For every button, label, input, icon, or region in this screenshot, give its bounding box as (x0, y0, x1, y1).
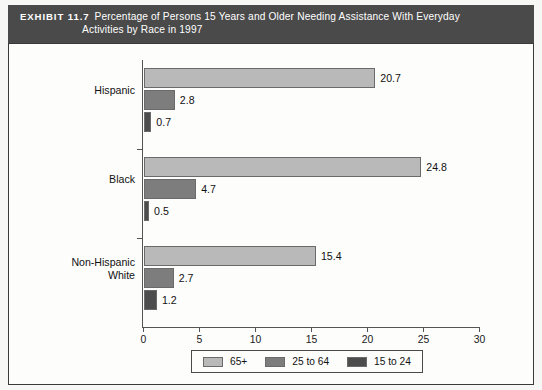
x-axis-tick (143, 327, 144, 332)
chart-bar (144, 268, 174, 288)
x-axis-tick-label: 25 (418, 334, 430, 345)
x-axis-tick-label: 10 (250, 334, 262, 345)
legend-label: 25 to 64 (292, 356, 329, 367)
category-label-line2: White (35, 269, 135, 282)
legend-item: 25 to 64 (265, 356, 329, 367)
y-axis-tick (137, 149, 143, 150)
category-label: Black (35, 173, 135, 186)
x-axis-tick-label: 5 (197, 334, 203, 345)
x-axis-tick (199, 327, 200, 332)
chart-bar (144, 68, 376, 88)
x-axis-tick-label: 0 (141, 334, 147, 345)
legend-swatch (347, 357, 367, 367)
bar-value-label: 2.7 (179, 272, 194, 284)
x-axis-tick (367, 327, 368, 332)
legend-item: 65+ (203, 356, 247, 367)
x-axis-tick-label: 15 (306, 334, 318, 345)
chart-legend: 65+25 to 6415 to 24 (191, 350, 423, 373)
x-axis-tick (479, 327, 480, 332)
bar-value-label: 4.7 (201, 183, 216, 195)
exhibit-title-line1: Percentage of Persons 15 Years and Older… (94, 11, 459, 22)
x-axis-tick (255, 327, 256, 332)
x-axis-tick (311, 327, 312, 332)
chart-bar (144, 246, 316, 266)
y-axis-tick (137, 238, 143, 239)
chart-bar (144, 201, 150, 221)
bar-value-label: 2.8 (180, 94, 195, 106)
legend-swatch (265, 357, 285, 367)
bar-value-label: 1.2 (162, 294, 177, 306)
exhibit-banner: EXHIBIT 11.7Percentage of Persons 15 Yea… (8, 5, 534, 43)
chart-bar (144, 179, 197, 199)
legend-label: 15 to 24 (374, 356, 411, 367)
legend-label: 65+ (230, 356, 247, 367)
chart-bar (144, 112, 152, 132)
exhibit-title-line2: Activities by Race in 1997 (82, 23, 524, 36)
bar-value-label: 15.4 (321, 250, 342, 262)
chart-bar (144, 157, 422, 177)
category-label: Non-HispanicWhite (35, 256, 135, 281)
legend-swatch (203, 357, 223, 367)
x-axis-tick-label: 30 (474, 334, 486, 345)
exhibit-page: EXHIBIT 11.7Percentage of Persons 15 Yea… (0, 0, 542, 390)
category-label: Hispanic (35, 84, 135, 97)
chart-bar (144, 290, 157, 310)
bar-value-label: 20.7 (380, 72, 401, 84)
bar-value-label: 0.7 (156, 116, 171, 128)
chart-bar (144, 90, 175, 110)
exhibit-title-block: EXHIBIT 11.7Percentage of Persons 15 Yea… (8, 5, 534, 37)
x-axis-tick-label: 20 (362, 334, 374, 345)
bar-value-label: 24.8 (426, 161, 447, 173)
legend-item: 15 to 24 (347, 356, 411, 367)
bar-value-label: 0.5 (154, 205, 169, 217)
exhibit-number: EXHIBIT 11.7 (20, 11, 89, 22)
x-axis-tick (423, 327, 424, 332)
